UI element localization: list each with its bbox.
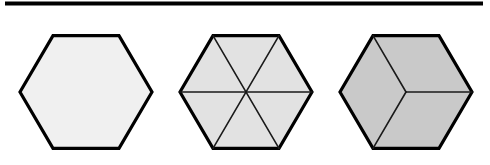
hexagon-figure <box>0 0 490 165</box>
figure-container <box>0 0 490 165</box>
